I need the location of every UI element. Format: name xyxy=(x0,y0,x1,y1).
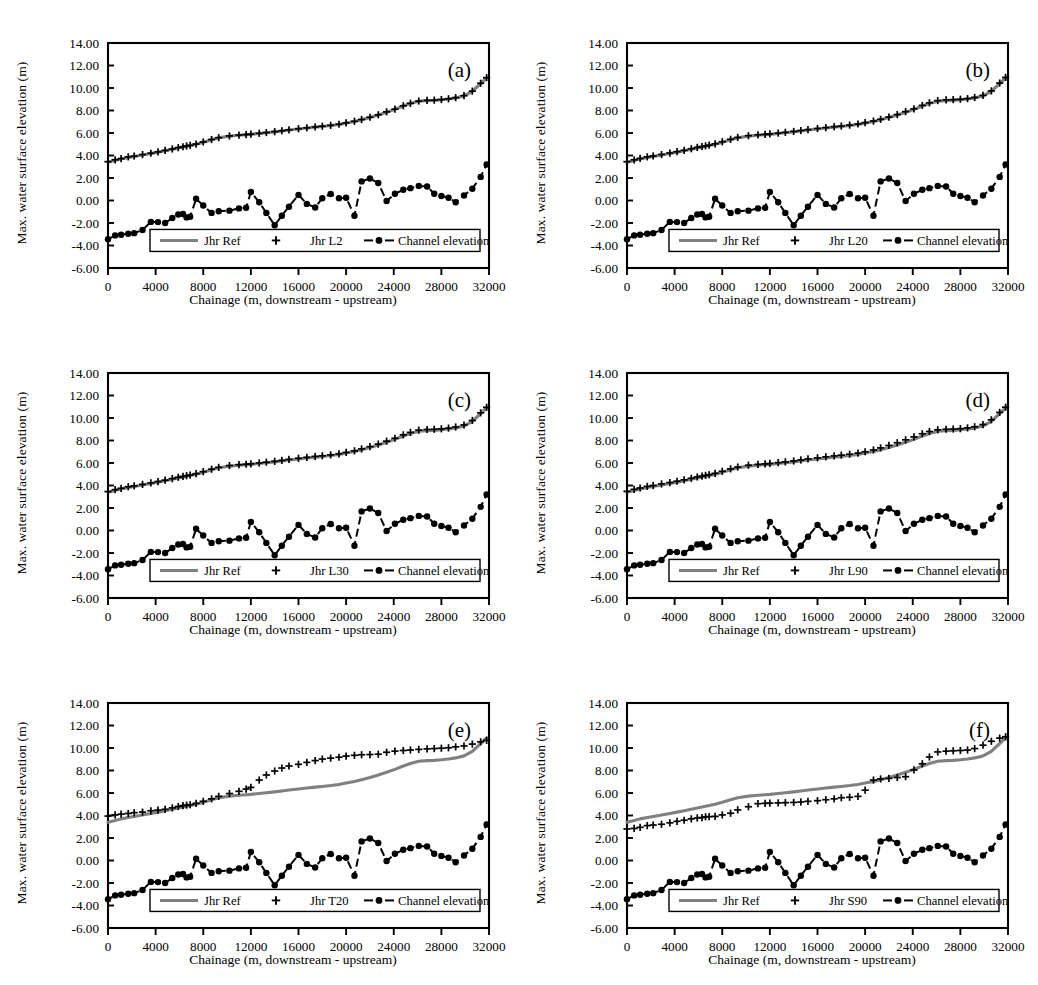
plot-area: 14.0012.0010.008.006.004.002.000.00-2.00… xyxy=(519,0,1038,330)
channel-elevation-marker xyxy=(681,220,687,226)
channel-elevation-marker xyxy=(226,207,232,213)
channel-elevation-marker xyxy=(706,544,712,550)
channel-elevation-marker xyxy=(248,189,254,195)
channel-elevation-marker xyxy=(838,195,844,201)
panel-letter: (e) xyxy=(448,718,471,742)
channel-elevation-marker xyxy=(658,887,664,893)
series-variant-markers xyxy=(623,733,1009,832)
channel-elevation-marker xyxy=(735,208,741,214)
channel-elevation-marker xyxy=(155,219,161,225)
y-tick-label: 10.00 xyxy=(588,411,618,426)
panel-letter: (a) xyxy=(448,58,471,82)
channel-elevation-marker xyxy=(624,236,630,242)
channel-elevation-marker xyxy=(312,864,318,870)
legend-label-jhr-ref: Jhr Ref xyxy=(204,894,242,908)
channel-elevation-marker xyxy=(762,535,768,541)
y-tick-label: 10.00 xyxy=(588,741,618,756)
y-tick-label: -4.00 xyxy=(591,568,619,583)
channel-elevation-marker xyxy=(105,896,111,902)
channel-elevation-marker xyxy=(375,180,381,186)
channel-elevation-marker xyxy=(762,865,768,871)
channel-elevation-marker xyxy=(719,862,725,868)
channel-elevation-marker xyxy=(263,210,269,216)
y-tick-label: 0.00 xyxy=(76,193,99,208)
channel-elevation-marker xyxy=(286,533,292,539)
channel-elevation-marker xyxy=(256,199,262,205)
channel-elevation-marker xyxy=(775,199,781,205)
channel-elevation-marker xyxy=(162,550,168,556)
channel-elevation-marker xyxy=(814,852,820,858)
channel-elevation-marker xyxy=(416,843,422,849)
plot-svg: 14.0012.0010.008.006.004.002.000.00-2.00… xyxy=(0,330,519,660)
channel-elevation-marker xyxy=(926,185,932,191)
channel-elevation-marker xyxy=(375,510,381,516)
legend-label-jhr-ref: Jhr Ref xyxy=(723,564,761,578)
channel-elevation-marker xyxy=(870,872,876,878)
y-tick-label: -4.00 xyxy=(591,898,619,913)
channel-elevation-marker xyxy=(886,505,892,511)
channel-elevation-marker xyxy=(681,880,687,886)
y-tick-label: 14.00 xyxy=(69,696,99,711)
channel-elevation-marker xyxy=(105,236,111,242)
channel-elevation-marker xyxy=(637,562,643,568)
legend: Jhr RefJhr L20Channel elevation xyxy=(669,229,1009,251)
channel-elevation-marker xyxy=(392,191,398,197)
plot-area: 14.0012.0010.008.006.004.002.000.00-2.00… xyxy=(0,660,519,985)
figure-six-panel-grid: 14.0012.0010.008.006.004.002.000.00-2.00… xyxy=(0,0,1038,985)
channel-elevation-marker xyxy=(469,845,475,851)
channel-elevation-marker xyxy=(445,194,451,200)
channel-elevation-marker xyxy=(208,870,214,876)
y-tick-label: 4.00 xyxy=(76,478,99,493)
channel-elevation-marker xyxy=(681,550,687,556)
legend-label-channel-elevation: Channel elevation xyxy=(917,894,1009,908)
y-tick-label: 10.00 xyxy=(69,741,99,756)
channel-elevation-marker xyxy=(667,879,673,885)
legend-label-channel-elevation: Channel elevation xyxy=(398,564,490,578)
channel-elevation-marker xyxy=(855,855,861,861)
channel-elevation-marker xyxy=(855,525,861,531)
y-tick-label: -2.00 xyxy=(591,546,619,561)
channel-elevation-marker xyxy=(193,196,199,202)
channel-elevation-marker xyxy=(980,852,986,858)
y-tick-label: -6.00 xyxy=(591,591,619,606)
channel-elevation-marker xyxy=(624,566,630,572)
y-tick-label: 8.00 xyxy=(76,433,99,448)
channel-elevation-marker xyxy=(112,562,118,568)
channel-elevation-marker xyxy=(148,219,154,225)
channel-elevation-marker xyxy=(483,491,489,497)
channel-elevation-marker xyxy=(469,515,475,521)
channel-elevation-marker xyxy=(862,194,868,200)
channel-elevation-marker xyxy=(831,534,837,540)
plot-svg: 14.0012.0010.008.006.004.002.000.00-2.00… xyxy=(519,0,1038,330)
channel-elevation-marker xyxy=(943,843,949,849)
y-tick-label: 2.00 xyxy=(595,831,618,846)
channel-elevation-marker xyxy=(131,230,137,236)
channel-elevation-marker xyxy=(727,870,733,876)
channel-elevation-marker xyxy=(139,227,145,233)
channel-elevation-marker xyxy=(988,845,994,851)
channel-elevation-marker xyxy=(407,515,413,521)
channel-elevation-marker xyxy=(980,522,986,528)
channel-elevation-marker xyxy=(935,843,941,849)
channel-elevation-marker xyxy=(200,202,206,208)
plot-svg: 14.0012.0010.008.006.004.002.000.00-2.00… xyxy=(519,660,1038,985)
channel-elevation-marker xyxy=(351,542,357,548)
y-tick-label: 10.00 xyxy=(69,81,99,96)
channel-elevation-marker xyxy=(438,523,444,529)
channel-elevation-marker xyxy=(208,540,214,546)
channel-elevation-marker xyxy=(236,205,242,211)
channel-elevation-marker xyxy=(950,521,956,527)
channel-elevation-marker xyxy=(767,189,773,195)
channel-elevation-marker xyxy=(902,528,908,534)
channel-elevation-marker xyxy=(483,161,489,167)
channel-elevation-marker xyxy=(862,854,868,860)
channel-elevation-marker xyxy=(367,835,373,841)
channel-elevation-marker xyxy=(477,834,483,840)
channel-elevation-marker xyxy=(950,191,956,197)
channel-elevation-marker xyxy=(706,874,712,880)
channel-elevation-marker xyxy=(279,872,285,878)
series-channel-elevation-line xyxy=(108,495,487,570)
channel-elevation-marker xyxy=(392,521,398,527)
channel-elevation-marker xyxy=(243,535,249,541)
y-tick-label: 12.00 xyxy=(69,388,99,403)
